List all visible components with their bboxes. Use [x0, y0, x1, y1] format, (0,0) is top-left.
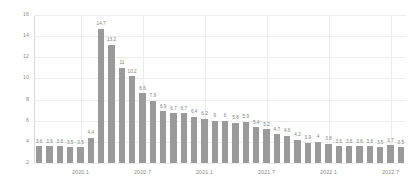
bar: [294, 140, 300, 163]
bar-value-label: 6.4: [191, 110, 198, 115]
bar-value-label: 4.7: [274, 128, 281, 133]
bar: [170, 113, 176, 163]
bar-value-label: 3.6: [356, 140, 363, 145]
bar: [346, 146, 352, 163]
bar: [129, 76, 135, 163]
y-axis-tick-label: 6: [0, 118, 29, 123]
bar-value-label: 3.6: [46, 140, 53, 145]
gridline-horizontal: [34, 57, 406, 58]
bar: [398, 147, 404, 163]
bar: [160, 111, 166, 163]
bar-value-label: 6: [224, 114, 227, 119]
bar: [119, 68, 125, 163]
gridline-horizontal: [34, 163, 406, 164]
bar: [201, 119, 207, 163]
bar: [139, 93, 145, 163]
x-axis-tick-label: 2021.7: [258, 170, 275, 175]
bar-value-label: 6: [214, 114, 217, 119]
bar-value-label: 3.6: [336, 140, 343, 145]
bar-chart: 246810121416 3.63.63.63.53.54.414.713.21…: [0, 0, 414, 194]
bar: [305, 143, 311, 163]
gridline-horizontal: [34, 15, 406, 16]
bar: [108, 45, 114, 163]
bar-value-label: 3.6: [36, 140, 43, 145]
bar-value-label: 4.4: [88, 131, 95, 136]
bar-value-label: 3.8: [325, 137, 332, 142]
bar-value-label: 4.6: [284, 129, 291, 134]
bar-value-label: 11: [119, 61, 124, 66]
bar: [243, 122, 249, 163]
bar: [387, 145, 393, 163]
bar-value-label: 4: [317, 135, 320, 140]
bar: [253, 127, 259, 163]
bar: [284, 136, 290, 163]
bar: [377, 147, 383, 163]
bar-value-label: 5.9: [243, 115, 250, 120]
bar: [325, 144, 331, 163]
bar-value-label: 8.6: [139, 87, 146, 92]
bar-value-label: 3.6: [367, 140, 374, 145]
y-axis-tick-label: 14: [0, 34, 29, 39]
y-axis-tick-label: 2: [0, 160, 29, 165]
bar-value-label: 3.9: [305, 136, 312, 141]
y-axis-tick-label: 10: [0, 76, 29, 81]
x-axis-tick-label: 2021.1: [196, 170, 213, 175]
bar: [336, 146, 342, 163]
bar-value-label: 3.5: [377, 141, 384, 146]
gridline-horizontal: [34, 100, 406, 101]
y-axis-tick-label: 12: [0, 55, 29, 60]
bar-value-label: 13.2: [107, 38, 116, 43]
bar-value-label: 14.7: [97, 22, 106, 27]
bar-value-label: 6.2: [201, 112, 208, 117]
bar-value-label: 6.7: [181, 107, 188, 112]
gridline-horizontal: [34, 121, 406, 122]
bar: [263, 129, 269, 163]
bar-value-label: 5.2: [263, 123, 270, 128]
bar-value-label: 3.7: [387, 139, 394, 144]
bar-value-label: 6.7: [170, 107, 177, 112]
plot-area: 3.63.63.63.53.54.414.713.21110.28.67.96.…: [34, 15, 406, 163]
y-axis-tick-label: 8: [0, 97, 29, 102]
y-axis-tick-label: 16: [0, 12, 29, 17]
bar: [46, 146, 52, 163]
bar: [77, 147, 83, 163]
bar: [98, 29, 104, 163]
bar: [356, 146, 362, 163]
bar-value-label: 5.8: [232, 116, 239, 121]
gridline-horizontal: [34, 36, 406, 37]
bar-value-label: 3.5: [67, 141, 74, 146]
bar-value-label: 7.9: [150, 94, 157, 99]
x-axis-tick-label: 2022.1: [320, 170, 337, 175]
x-axis-tick-label: 2020.1: [72, 170, 89, 175]
y-axis-tick-label: 4: [0, 139, 29, 144]
bar-value-label: 3.5: [398, 141, 405, 146]
bar-value-label: 5.4: [253, 121, 260, 126]
bar: [274, 134, 280, 163]
bar: [150, 101, 156, 163]
bar: [191, 117, 197, 164]
bar: [367, 146, 373, 163]
bar: [88, 138, 94, 163]
bar: [232, 123, 238, 163]
bar: [181, 113, 187, 163]
bar: [222, 121, 228, 163]
bar: [67, 147, 73, 163]
bar: [57, 146, 63, 163]
bar-value-label: 3.6: [346, 140, 353, 145]
bar: [212, 121, 218, 163]
bar-value-label: 10.2: [128, 70, 137, 75]
bar: [36, 146, 42, 163]
x-axis-tick-label: 2022.7: [382, 170, 399, 175]
bar-value-label: 6.9: [160, 105, 167, 110]
bar: [315, 142, 321, 163]
x-axis-tick-label: 2020.7: [134, 170, 151, 175]
bar-value-label: 4.2: [294, 133, 301, 138]
gridline-horizontal: [34, 78, 406, 79]
bar-value-label: 3.5: [77, 141, 84, 146]
bar-value-label: 3.6: [57, 140, 64, 145]
